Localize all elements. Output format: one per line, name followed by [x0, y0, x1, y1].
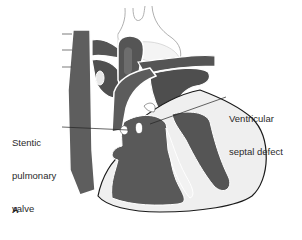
pulmonary-vein-opening: [96, 71, 104, 85]
right-pulmonary-artery: [92, 39, 118, 58]
superior-vena-cava: [68, 30, 95, 195]
label-line: septal defect: [229, 146, 283, 157]
label-line: pulmonary: [12, 170, 56, 181]
aorta-inner-highlight: [124, 47, 132, 75]
label-line: Ventricular: [229, 113, 283, 124]
label-line: Stentic: [12, 137, 56, 148]
label-ventricular-septal-defect: Ventricular septal defect: [229, 91, 283, 168]
panel-letter: A: [12, 205, 19, 215]
